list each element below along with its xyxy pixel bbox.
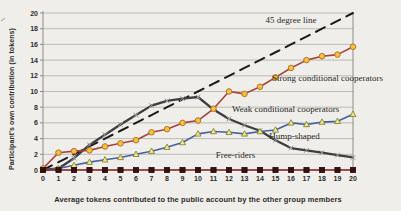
series-strong-conditional-cooperators-marker [288, 65, 294, 71]
series-free-riders-marker [211, 167, 216, 172]
series-free-riders-marker [102, 167, 107, 172]
series-strong-conditional-cooperators-marker [118, 141, 124, 147]
series-strong-conditional-cooperators-marker [195, 118, 201, 124]
plot-area: 0246810121416182001234567891011121314151… [0, 0, 401, 211]
y-tick-label: 6 [34, 119, 38, 126]
series-free-riders-marker [164, 167, 169, 172]
series-strong-conditional-cooperators-marker [211, 106, 217, 112]
x-tick-label: 18 [318, 175, 326, 182]
series-free-riders-marker [40, 167, 45, 172]
y-axis-title: Participant's own contribution (in token… [8, 19, 20, 179]
series-free-riders-marker [87, 167, 92, 172]
series-strong-conditional-cooperators-marker [71, 148, 77, 154]
x-tick-label: 19 [334, 175, 342, 182]
x-tick-label: 13 [241, 175, 249, 182]
series-free-riders-marker [350, 167, 355, 172]
series-free-riders-marker [273, 167, 278, 172]
x-tick-label: 8 [165, 175, 169, 182]
series-strong-conditional-cooperators-marker [319, 53, 325, 59]
x-tick-label: 16 [287, 175, 295, 182]
x-tick-label: 12 [225, 175, 233, 182]
series-strong-conditional-cooperators-marker [56, 150, 62, 156]
series-strong-conditional-cooperators-marker [257, 84, 263, 90]
scan-artifact [1, 18, 5, 21]
series-strong-conditional-cooperators-marker [164, 126, 170, 132]
series-free-riders-marker [242, 167, 247, 172]
series-strong-conditional-cooperators-marker [133, 137, 139, 143]
x-tick-label: 14 [256, 175, 264, 182]
x-tick-label: 5 [119, 175, 123, 182]
series-free-riders-marker [319, 167, 324, 172]
x-tick-label: 9 [181, 175, 185, 182]
y-tick-label: 18 [30, 25, 38, 32]
x-tick-label: 1 [57, 175, 61, 182]
series-free-riders-marker [335, 167, 340, 172]
chart-figure: 0246810121416182001234567891011121314151… [0, 0, 401, 211]
series-strong-conditional-cooperators-marker [149, 130, 155, 136]
series-free-riders-marker [304, 167, 309, 172]
series-free-riders-marker [149, 167, 154, 172]
series-free-riders-marker [56, 167, 61, 172]
series-strong-conditional-cooperators-marker [87, 148, 93, 154]
x-tick-label: 15 [272, 175, 280, 182]
series-free-riders-marker [133, 167, 138, 172]
y-tick-label: 20 [30, 10, 38, 17]
series-free-riders-marker [257, 167, 262, 172]
x-tick-label: 11 [210, 175, 218, 182]
annotation-hump-shaped: Hump-shaped [269, 131, 320, 141]
series-strong-conditional-cooperators-marker [335, 52, 341, 58]
annotation-weak-conditional-cooperators: Weak conditional cooperators [232, 104, 340, 114]
y-tick-label: 10 [30, 88, 38, 95]
y-tick-label: 14 [30, 57, 38, 64]
x-tick-label: 2 [72, 175, 76, 182]
series-free-riders-marker [226, 167, 231, 172]
annotation-45-degree-line: 45 degree line [265, 15, 316, 25]
y-tick-label: 0 [34, 167, 38, 174]
y-tick-label: 2 [34, 151, 38, 158]
y-tick-label: 4 [34, 135, 38, 142]
series-free-riders-marker [71, 167, 76, 172]
series-free-riders-marker [288, 167, 293, 172]
x-axis-title: Average tokens contributed to the public… [43, 195, 353, 204]
series-strong-conditional-cooperators-marker [242, 91, 248, 97]
y-tick-label: 16 [30, 41, 38, 48]
x-tick-label: 17 [303, 175, 311, 182]
series-free-riders-marker [195, 167, 200, 172]
series-strong-conditional-cooperators-marker [102, 144, 108, 150]
x-tick-label: 4 [103, 175, 107, 182]
series-free-riders-marker [118, 167, 123, 172]
series-strong-conditional-cooperators-marker [304, 57, 310, 63]
x-tick-label: 10 [194, 175, 202, 182]
annotation-strong-conditional-cooperators: Strong conditional cooperators [272, 73, 383, 83]
series-strong-conditional-cooperators-marker [350, 44, 356, 50]
x-tick-label: 0 [41, 175, 45, 182]
x-tick-label: 3 [88, 175, 92, 182]
x-tick-label: 7 [150, 175, 154, 182]
series-strong-conditional-cooperators-marker [226, 89, 232, 95]
y-tick-label: 12 [30, 72, 38, 79]
series-strong-conditional-cooperators-marker [180, 120, 186, 126]
annotation-free-riders: Free-riders [216, 150, 256, 160]
x-tick-label: 20 [349, 175, 357, 182]
y-tick-label: 8 [34, 104, 38, 111]
series-weak-conditional-cooperators-marker [350, 111, 356, 116]
x-tick-label: 6 [134, 175, 138, 182]
series-free-riders-marker [180, 167, 185, 172]
